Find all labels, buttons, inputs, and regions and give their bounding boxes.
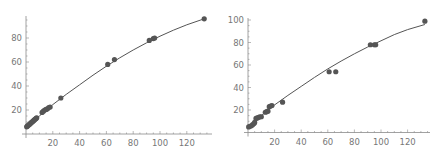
x-tick-label: 100: [373, 137, 389, 147]
y-tick-label: 40: [233, 83, 244, 93]
left-plot-canvas: 2040608010012020406080: [0, 0, 220, 154]
data-point: [422, 19, 427, 24]
y-tick-label: 100: [228, 15, 244, 25]
x-tick-label: 120: [179, 138, 195, 148]
x-tick-label: 120: [399, 137, 415, 147]
fit-curve: [248, 25, 425, 127]
x-tick-label: 80: [128, 138, 139, 148]
x-tick-label: 80: [349, 137, 360, 147]
y-tick-label: 60: [11, 57, 22, 67]
data-point: [152, 35, 157, 40]
data-point: [105, 62, 110, 67]
x-tick-label: 60: [322, 137, 333, 147]
x-tick-label: 60: [101, 138, 112, 148]
left-scatter-plot: 2040608010012020406080: [0, 0, 220, 154]
x-tick-label: 20: [47, 138, 58, 148]
x-tick-label: 100: [152, 138, 168, 148]
fit-curve: [26, 19, 204, 128]
data-point: [202, 16, 207, 21]
y-tick-label: 80: [233, 38, 244, 48]
data-point: [259, 114, 264, 119]
data-point: [265, 109, 270, 114]
data-point: [280, 100, 285, 105]
y-tick-label: 40: [11, 81, 22, 91]
data-point: [269, 103, 274, 108]
data-point: [373, 42, 378, 47]
data-point: [34, 115, 39, 120]
data-point: [333, 69, 338, 74]
x-tick-label: 20: [269, 137, 280, 147]
x-tick-label: 40: [74, 138, 85, 148]
data-point: [48, 104, 53, 109]
data-point: [327, 69, 332, 74]
right-plot-canvas: 2040608010012020406080100: [220, 0, 441, 154]
y-tick-label: 20: [11, 105, 22, 115]
data-point: [58, 95, 63, 100]
data-point: [112, 57, 117, 62]
y-tick-label: 20: [233, 105, 244, 115]
x-tick-label: 40: [296, 137, 307, 147]
y-tick-label: 60: [233, 60, 244, 70]
y-tick-label: 80: [11, 33, 22, 43]
right-scatter-plot: 2040608010012020406080100: [220, 0, 441, 154]
